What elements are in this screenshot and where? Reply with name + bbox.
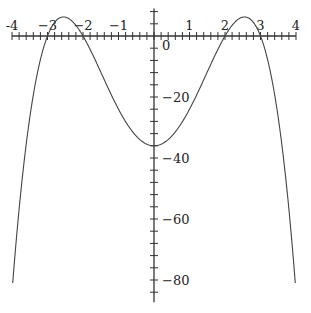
y-tick-label: −80 <box>162 273 189 288</box>
x-tick-label: 4 <box>292 18 300 33</box>
x-tick-label: −1 <box>109 18 128 33</box>
x-tick-label: 1 <box>185 18 193 33</box>
tick-labels: -4−3−2−112340−20−40−60−80 <box>6 18 300 288</box>
x-tick-label: -4 <box>6 18 19 33</box>
axes <box>12 9 296 303</box>
y-tick-label: 0 <box>162 38 170 53</box>
x-tick-label: −3 <box>38 18 57 33</box>
y-tick-label: −40 <box>162 151 189 166</box>
y-tick-label: −60 <box>162 212 189 227</box>
chart: -4−3−2−112340−20−40−60−80 <box>0 0 311 313</box>
x-tick-label: 3 <box>256 18 264 33</box>
y-tick-label: −20 <box>162 90 189 105</box>
